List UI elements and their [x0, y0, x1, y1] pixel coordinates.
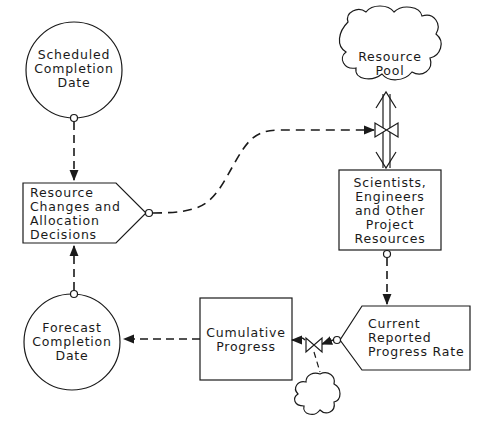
flow-arrowhead-down [376, 152, 396, 168]
rate-to-valve-arrow [322, 340, 333, 344]
connector-dot [71, 115, 78, 122]
resource-pool-label: Resource Pool [350, 50, 430, 78]
source-cloud [295, 373, 340, 415]
cloud-to-valve-line [314, 352, 320, 372]
scientists-engineers-label: Scientists, Engineers and Other Project … [340, 176, 440, 246]
forecast-completion-date-label: Forecast Completion Date [24, 321, 120, 363]
cumulative-progress-label: Cumulative Progress [201, 326, 291, 354]
connector-dot [71, 291, 78, 298]
resource-changes-label: Resource Changes and Allocation Decision… [30, 186, 150, 242]
resource-valve-icon [375, 123, 398, 137]
flow-arrowhead-up [376, 92, 396, 108]
current-reported-progress-rate-label: Current Reported Progress Rate [368, 317, 472, 359]
scheduled-completion-date-label: Scheduled Completion Date [26, 48, 122, 90]
progress-valve-icon [306, 338, 322, 352]
connector-dot [334, 337, 341, 344]
connector-dot [384, 251, 391, 258]
